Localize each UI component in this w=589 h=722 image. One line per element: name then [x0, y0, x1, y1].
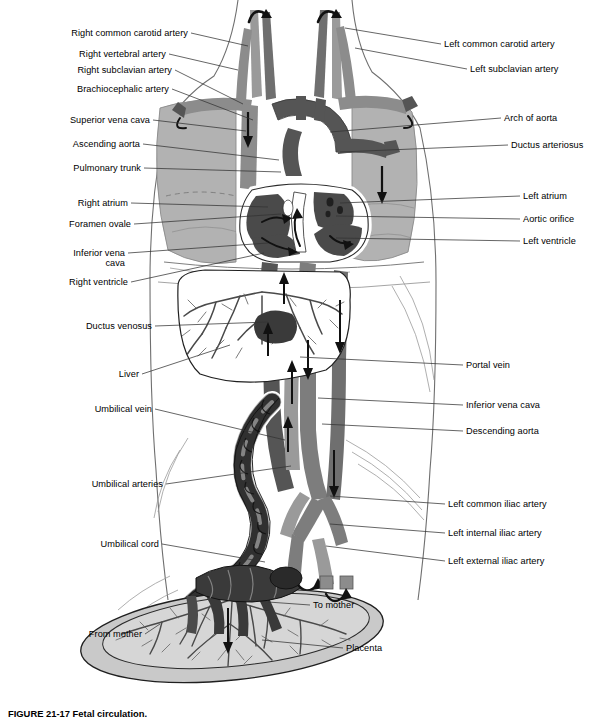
label-left-ventricle: Left ventricle — [523, 236, 576, 247]
label-right-subclavian-artery: Right subclavian artery — [77, 65, 172, 76]
label-from-mother: From mother — [89, 629, 142, 640]
label-brachiocephalic-artery: Brachiocephalic artery — [77, 84, 169, 95]
label-ductus-venosus: Ductus venosus — [86, 321, 152, 332]
figure-page: Right common carotid arteryRight vertebr… — [0, 0, 589, 722]
label-left-external-iliac-artery: Left external iliac artery — [448, 556, 544, 567]
label-cava: cava — [105, 258, 125, 269]
label-inferior-vena-cava: Inferior vena cava — [466, 400, 540, 411]
label-right-ventricle: Right ventricle — [69, 277, 128, 288]
label-left-atrium: Left atrium — [523, 191, 567, 202]
label-descending-aorta: Descending aorta — [466, 426, 539, 437]
label-left-internal-iliac-artery: Left internal iliac artery — [448, 528, 542, 539]
foramen-ovale — [283, 200, 293, 216]
leader-line — [169, 54, 238, 70]
label-aortic-orifice: Aortic orifice — [523, 214, 574, 225]
label-umbilical-vein: Umbilical vein — [95, 404, 152, 415]
leader-line — [191, 33, 248, 46]
label-left-common-iliac-artery: Left common iliac artery — [448, 499, 547, 510]
label-right-common-carotid-artery: Right common carotid artery — [71, 28, 188, 39]
label-portal-vein: Portal vein — [466, 360, 510, 371]
label-left-common-carotid-artery: Left common carotid artery — [444, 39, 555, 50]
label-left-subclavian-artery: Left subclavian artery — [470, 64, 558, 75]
leader-line — [326, 546, 445, 561]
label-arch-of-aorta: Arch of aorta — [504, 113, 557, 124]
label-superior-vena-cava: Superior vena cava — [70, 115, 150, 126]
figure-caption: FIGURE 21-17 Fetal circulation. — [8, 708, 147, 722]
label-right-atrium: Right atrium — [78, 198, 128, 209]
label-placenta: Placenta — [346, 643, 382, 654]
leader-line — [355, 48, 467, 69]
label-pulmonary-trunk: Pulmonary trunk — [73, 163, 141, 174]
label-liver: Liver — [119, 369, 139, 380]
label-umbilical-cord: Umbilical cord — [101, 539, 159, 550]
label-foramen-ovale: Foramen ovale — [69, 219, 131, 230]
leader-line — [330, 524, 445, 533]
label-umbilical-arteries: Umbilical arteries — [92, 479, 163, 490]
label-ductus-arteriosus: Ductus arteriosus — [511, 140, 583, 151]
leader-line — [166, 466, 291, 484]
label-ascending-aorta: Ascending aorta — [73, 139, 140, 150]
label-right-vertebral-artery: Right vertebral artery — [79, 49, 166, 60]
iliac-arteries — [280, 492, 348, 546]
heart — [240, 184, 368, 262]
neck-vessels — [236, 10, 356, 102]
liver — [178, 270, 350, 382]
pulmonary-trunk — [282, 128, 302, 176]
label-inferior-vena: Inferior vena — [73, 248, 125, 259]
portal-hub — [254, 310, 297, 343]
label-to-mother: To mother — [313, 600, 354, 611]
